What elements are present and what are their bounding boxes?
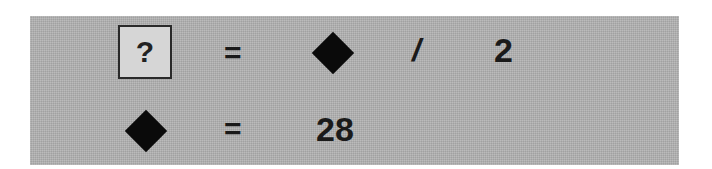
unknown-box: ? [118,25,172,79]
question-mark: ? [136,35,154,69]
equals-sign-row2: = [224,112,242,146]
divisor-value: 2 [494,31,513,70]
divide-operator: / [412,32,421,69]
diamond-value: 28 [316,110,354,149]
equals-sign-row1: = [224,36,242,70]
